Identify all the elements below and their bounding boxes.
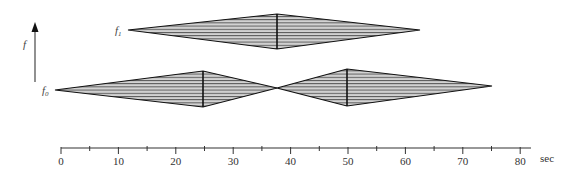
time-axis-unit: sec [540,152,554,164]
tick-label: 70 [457,155,469,167]
tick-label: 10 [113,155,125,167]
f1-diamond [128,14,420,49]
f0-diamond-2 [277,69,492,106]
tick-label: 80 [515,155,527,167]
tick-label: 40 [285,155,297,167]
diagram-canvas: f f1 f0 01020304050607080 sec [0,0,578,176]
frequency-axis-arrow [32,22,39,82]
tick-label: 50 [343,155,355,167]
time-axis: 01020304050607080 [58,146,531,167]
frequency-axis-label: f [23,38,28,50]
f1-label: f1 [115,24,122,38]
f0-diamond-1 [55,71,277,107]
f0-label: f0 [42,84,49,98]
tick-label: 0 [58,155,64,167]
tick-label: 60 [400,155,412,167]
tick-label: 20 [170,155,182,167]
tick-label: 30 [228,155,240,167]
